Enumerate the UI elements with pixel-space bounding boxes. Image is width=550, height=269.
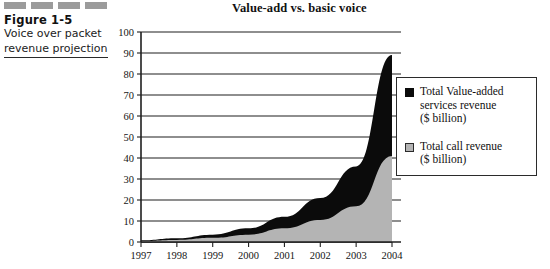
legend-entry-value-added: Total Value-added services revenue ($ bi…: [405, 85, 529, 126]
legend-label-value-added: Total Value-added services revenue ($ bi…: [420, 85, 504, 126]
svg-text:70: 70: [124, 90, 135, 101]
svg-text:100: 100: [118, 27, 134, 38]
svg-text:90: 90: [124, 48, 135, 59]
y-axis-tick-labels: 0102030405060708090100: [118, 27, 141, 248]
svg-text:10: 10: [124, 216, 135, 227]
svg-text:2001: 2001: [274, 250, 295, 261]
svg-text:50: 50: [124, 132, 135, 143]
svg-text:2004: 2004: [382, 250, 404, 261]
legend-entry-call-revenue: Total call revenue ($ billion): [405, 140, 529, 167]
x-axis-tick-labels: 19971998199920002001200220032004: [131, 242, 404, 261]
chart-legend: Total Value-added services revenue ($ bi…: [396, 77, 537, 176]
legend-swatch-black-icon: [405, 88, 414, 97]
legend-swatch-gray-icon: [405, 143, 414, 152]
svg-text:1999: 1999: [202, 250, 223, 261]
legend-label-line: ($ billion): [420, 153, 466, 165]
svg-text:20: 20: [124, 195, 135, 206]
legend-label-line: services revenue: [420, 99, 496, 111]
legend-label-line: Total call revenue: [420, 140, 502, 152]
svg-text:30: 30: [124, 174, 135, 185]
svg-text:2002: 2002: [310, 250, 331, 261]
svg-text:2003: 2003: [346, 250, 367, 261]
svg-text:60: 60: [124, 111, 135, 122]
legend-label-line: Total Value-added: [420, 85, 504, 97]
svg-text:1997: 1997: [131, 250, 152, 261]
svg-text:40: 40: [124, 153, 135, 164]
legend-label-call-revenue: Total call revenue ($ billion): [420, 140, 502, 167]
svg-text:80: 80: [124, 69, 135, 80]
svg-text:2000: 2000: [238, 250, 259, 261]
svg-text:1998: 1998: [166, 250, 187, 261]
svg-text:0: 0: [129, 237, 134, 248]
legend-label-line: ($ billion): [420, 112, 466, 124]
